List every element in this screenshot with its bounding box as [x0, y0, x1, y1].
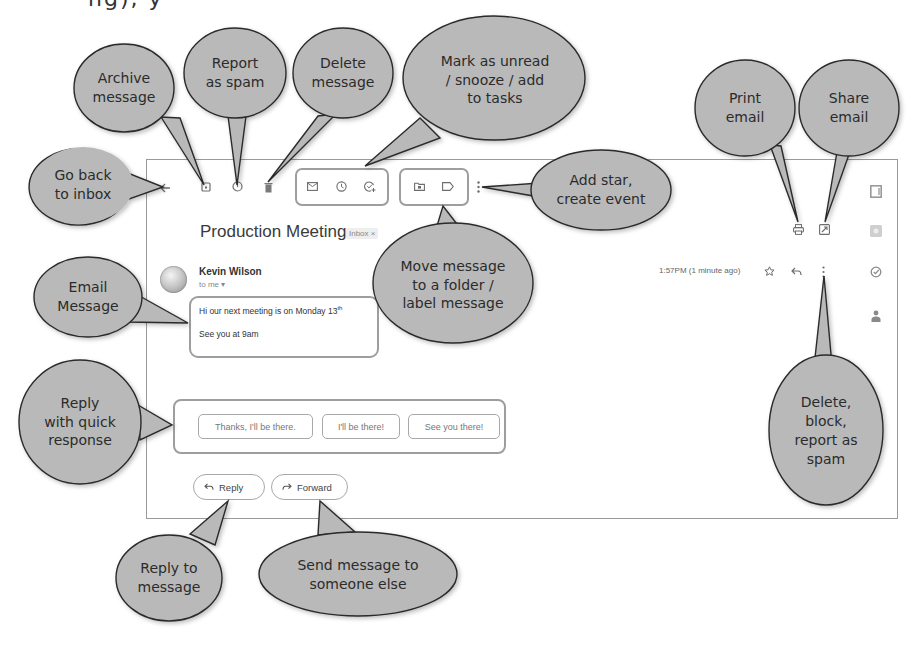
label-button[interactable]	[441, 180, 455, 193]
archive-icon	[201, 182, 211, 192]
message-more-options-button[interactable]	[819, 264, 827, 279]
smart-reply-2[interactable]: I'll be there!	[322, 414, 400, 439]
delete-button[interactable]	[262, 180, 274, 194]
arrow-left-icon	[159, 182, 171, 194]
callout-print-email: Print email	[700, 75, 790, 141]
forward-button[interactable]: Forward	[271, 474, 348, 500]
clock-icon	[336, 181, 347, 192]
add-to-tasks-button[interactable]	[363, 179, 377, 193]
smart-reply-1[interactable]: Thanks, I'll be there.	[198, 414, 313, 439]
callout-report-spam: Report as spam	[185, 33, 285, 113]
smart-reply-3[interactable]: See you there!	[408, 414, 500, 439]
back-to-inbox-button[interactable]	[157, 180, 173, 196]
add-task-icon	[364, 181, 376, 192]
callout-reply-to-message: Reply to message	[120, 546, 218, 610]
trash-icon	[264, 182, 273, 193]
callout-go-back-to-inbox: Go back to inbox	[33, 150, 133, 220]
reply-icon	[791, 267, 802, 277]
smart-reply-group: Thanks, I'll be there. I'll be there! Se…	[173, 399, 506, 454]
side-panel-tasks[interactable]	[868, 264, 884, 280]
email-body-line-2: See you at 9am	[199, 329, 259, 339]
cut-off-heading-text: ng), y	[88, 0, 164, 11]
callout-delete-block-report: Delete, block, report as spam	[774, 375, 878, 487]
email-body: Hi our next meeting is on Monday 13th Se…	[189, 296, 379, 358]
email-subject: Production Meeting	[200, 222, 346, 242]
printer-icon	[793, 224, 804, 235]
reply-icon-button[interactable]	[790, 265, 803, 278]
sender-avatar[interactable]	[160, 266, 187, 293]
folder-move-icon	[414, 182, 425, 191]
report-spam-button[interactable]	[230, 179, 244, 193]
star-button[interactable]	[763, 265, 776, 278]
callout-mark-unread-snooze-tasks: Mark as unread / snooze / add to tasks	[410, 35, 580, 125]
callout-forward-message: Send message to someone else	[265, 544, 451, 606]
callout-archive-message: Archive message	[74, 48, 174, 128]
more-options-toolbar-button[interactable]	[474, 179, 482, 194]
forward-label: Forward	[297, 482, 332, 493]
mark-unread-button[interactable]	[305, 179, 319, 193]
label-icon	[442, 182, 454, 191]
calendar-icon	[870, 185, 882, 198]
more-vertical-icon	[477, 181, 480, 193]
snooze-button[interactable]	[334, 179, 348, 193]
keep-icon	[870, 225, 882, 237]
reply-button[interactable]: Reply	[193, 474, 265, 500]
callout-email-message: Email Message	[38, 265, 138, 329]
side-panel-keep[interactable]	[868, 223, 884, 239]
forward-icon	[282, 483, 292, 491]
sender-name[interactable]: Kevin Wilson	[199, 266, 262, 277]
recipient-details-toggle[interactable]: to me ▾	[199, 280, 225, 289]
reply-label: Reply	[219, 482, 243, 493]
star-icon	[764, 266, 775, 277]
move-to-folder-button[interactable]	[412, 180, 426, 193]
tasks-icon	[870, 266, 882, 278]
callout-quick-reply: Reply with quick response	[24, 375, 136, 469]
print-button[interactable]	[791, 222, 805, 236]
side-panel-calendar[interactable]	[868, 183, 884, 199]
open-in-new-window-button[interactable]	[817, 222, 831, 236]
contacts-icon	[871, 310, 881, 322]
inbox-label-badge[interactable]: Inbox ×	[346, 228, 378, 239]
callout-add-star-create-event: Add star, create event	[536, 160, 666, 220]
more-vertical-icon	[822, 266, 825, 278]
side-panel-contacts[interactable]	[868, 308, 884, 324]
reply-icon	[204, 483, 214, 491]
open-in-new-icon	[819, 224, 830, 235]
archive-button[interactable]	[199, 180, 213, 194]
email-timestamp: 1:57PM (1 minute ago)	[659, 266, 740, 275]
callout-share-email: Share email	[804, 75, 894, 141]
move-label-group	[399, 168, 469, 206]
callout-move-label-message: Move message to a folder / label message	[378, 240, 528, 330]
envelope-icon	[307, 182, 318, 191]
report-spam-icon	[232, 181, 243, 192]
callout-delete-message: Delete message	[293, 33, 393, 113]
email-body-line-1: Hi our next meeting is on Monday 13th	[199, 305, 342, 316]
